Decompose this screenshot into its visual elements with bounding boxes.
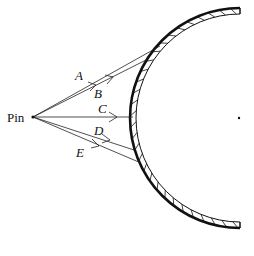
mirror-diagram: Pin A B C D E xyxy=(0,0,254,256)
hatch-line xyxy=(150,173,152,181)
ray-label-a: A xyxy=(74,68,83,83)
pin-label: Pin xyxy=(7,110,25,125)
hatch-line xyxy=(168,35,176,36)
pin-point xyxy=(31,115,34,118)
hatch-line xyxy=(187,22,195,25)
ray-label-e: E xyxy=(75,145,84,160)
hatch-line xyxy=(139,154,143,161)
ray-label-b: B xyxy=(94,86,102,101)
ray-a xyxy=(33,46,160,117)
ray-b xyxy=(33,60,146,117)
curved-mirror xyxy=(130,0,252,228)
ray-label-d: D xyxy=(93,123,104,138)
center-point xyxy=(238,117,240,119)
rays xyxy=(33,46,160,163)
hatch-line xyxy=(197,17,204,21)
hatch-line xyxy=(177,28,185,30)
ray-e xyxy=(33,117,141,163)
hatch-line xyxy=(157,182,158,190)
hatch-line xyxy=(219,10,226,15)
hatch-line xyxy=(208,13,215,17)
hatch-line xyxy=(144,164,147,172)
hatch-line xyxy=(135,143,139,150)
ray-label-c: C xyxy=(98,101,107,116)
